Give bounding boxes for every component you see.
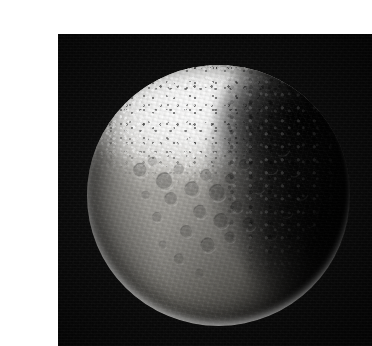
crater <box>158 240 169 251</box>
crater <box>290 182 310 202</box>
crater <box>173 252 187 266</box>
crater <box>223 230 238 245</box>
crater <box>285 161 303 179</box>
left-limb-facet-shading <box>87 65 350 326</box>
crater <box>241 216 259 234</box>
crater <box>207 182 229 204</box>
crater <box>154 170 177 193</box>
crater <box>230 199 246 215</box>
crater <box>163 191 181 209</box>
limb-highlight <box>87 65 350 326</box>
crater <box>272 138 293 159</box>
dark-terrain-region <box>87 65 350 326</box>
terrain-boundary-mottling <box>87 65 350 326</box>
crater <box>131 161 150 180</box>
terminator-shading <box>87 65 350 326</box>
crater <box>302 214 317 229</box>
crater-field <box>87 65 350 326</box>
crater <box>277 202 295 220</box>
crater <box>194 268 206 280</box>
iapetus-photo: Saturn's moon Iapetus, showing the brigh… <box>58 34 372 346</box>
crater <box>199 236 219 256</box>
frost-speckle-texture <box>87 65 350 326</box>
terrain-grain-texture <box>87 65 350 326</box>
bright-polar-terrain-region <box>87 65 350 326</box>
crater <box>224 172 238 186</box>
crater <box>179 224 196 241</box>
photo-caption: Saturn's moon Iapetus, showing the brigh… <box>58 34 59 35</box>
crater <box>238 158 251 171</box>
crater <box>183 180 203 200</box>
crater <box>151 211 164 224</box>
crater <box>147 156 160 169</box>
dark-terrain-lower-lobe <box>87 65 350 326</box>
crater <box>262 158 281 177</box>
crater <box>199 168 215 184</box>
iapetus-disc <box>87 65 350 326</box>
dark-terrain-upper-lobe <box>87 65 350 326</box>
bright-polar-terrain-core <box>87 65 350 326</box>
crater <box>172 162 187 177</box>
crater <box>263 226 279 242</box>
crater <box>212 211 232 231</box>
crater <box>192 203 210 221</box>
crater <box>140 190 151 201</box>
crater <box>250 180 266 196</box>
